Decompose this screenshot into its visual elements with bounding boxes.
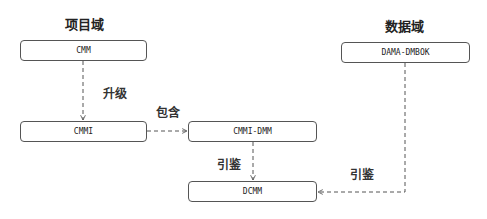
- edge-label-reference-right: 引鉴: [350, 165, 374, 182]
- data-domain-title: 数据域: [385, 16, 424, 35]
- node-dama-dmbok[interactable]: DAMA-DMBOK: [341, 42, 470, 63]
- node-cmmi[interactable]: CMMI: [20, 121, 147, 142]
- node-dcmm[interactable]: DCMM: [188, 181, 317, 202]
- project-domain-title: 项目域: [65, 14, 104, 33]
- node-cmmi-dmm[interactable]: CMMI-DMM: [188, 121, 317, 142]
- node-cmm[interactable]: CMM: [20, 40, 147, 61]
- edge-label-upgrade: 升级: [103, 84, 127, 101]
- edge-label-reference-left: 引鉴: [217, 155, 241, 172]
- edge-label-contains: 包含: [156, 103, 180, 120]
